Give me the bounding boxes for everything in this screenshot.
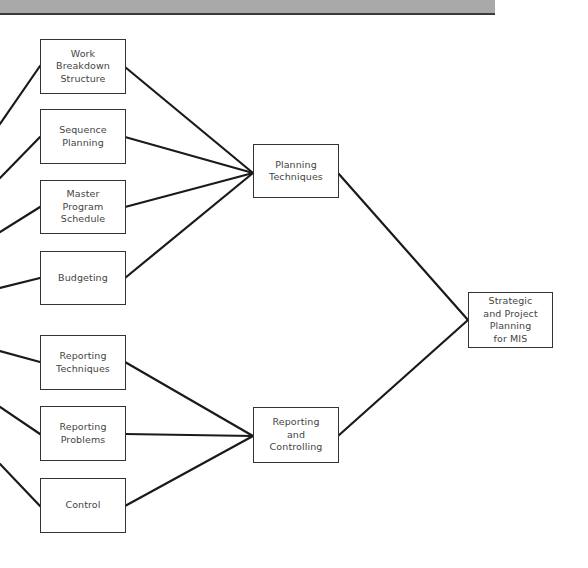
connector-planning-root: [338, 173, 468, 320]
node-budgeting: Budgeting: [40, 251, 126, 305]
node-master-program-schedule: Master Program Schedule: [40, 180, 126, 234]
node-label: Master Program Schedule: [61, 188, 105, 226]
node-label: Reporting and Controlling: [270, 416, 323, 454]
connector-in-control: [0, 464, 40, 506]
connector-budget-planning: [125, 173, 253, 278]
node-sequence-planning: Sequence Planning: [40, 109, 126, 164]
connector-control-reporting: [125, 436, 253, 506]
connector-rprob-reporting: [125, 434, 253, 436]
connector-in-mps: [0, 207, 40, 232]
node-label: Strategic and Project Planning for MIS: [483, 295, 538, 345]
node-reporting-problems: Reporting Problems: [40, 406, 126, 461]
node-label: Reporting Techniques: [56, 350, 110, 375]
connector-in-budget: [0, 278, 40, 288]
node-label: Work Breakdown Structure: [56, 48, 110, 86]
connector-rtech-reporting: [125, 362, 253, 436]
connector-in-rprob: [0, 407, 40, 434]
node-label: Control: [65, 499, 100, 512]
connector-seq-planning: [125, 137, 253, 173]
node-reporting-techniques: Reporting Techniques: [40, 335, 126, 390]
connector-wbs-planning: [125, 67, 253, 173]
node-reporting-and-controlling: Reporting and Controlling: [253, 407, 339, 463]
node-strategic-project-planning-mis: Strategic and Project Planning for MIS: [468, 292, 553, 348]
connector-in-wbs: [0, 66, 40, 124]
node-control: Control: [40, 478, 126, 533]
connector-in-rtech: [0, 351, 40, 362]
node-work-breakdown-structure: Work Breakdown Structure: [40, 39, 126, 94]
node-label: Sequence Planning: [59, 124, 107, 149]
node-label: Budgeting: [58, 272, 108, 285]
connector-reporting-root: [338, 320, 468, 436]
connector-in-seq: [0, 137, 40, 178]
node-label: Planning Techniques: [269, 159, 323, 184]
node-label: Reporting Problems: [59, 421, 106, 446]
node-planning-techniques: Planning Techniques: [253, 144, 339, 198]
